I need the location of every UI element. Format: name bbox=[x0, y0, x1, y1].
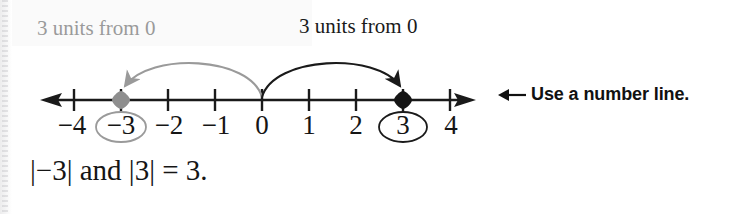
left-arrow-icon bbox=[496, 85, 526, 105]
tick-label-four: 4 bbox=[421, 112, 481, 139]
arc-right-three-units bbox=[262, 63, 400, 97]
annotation-callout: Use a number line. bbox=[496, 84, 689, 105]
marker-negative-three bbox=[112, 91, 130, 109]
arc-left-three-units bbox=[125, 63, 262, 97]
number-line-figure: 3 units from 0 3 units from 0 bbox=[0, 0, 750, 214]
absolute-value-equation: |−3| and |3| = 3. bbox=[30, 156, 208, 185]
annotation-text: Use a number line. bbox=[531, 84, 689, 105]
marker-positive-three bbox=[394, 91, 412, 109]
